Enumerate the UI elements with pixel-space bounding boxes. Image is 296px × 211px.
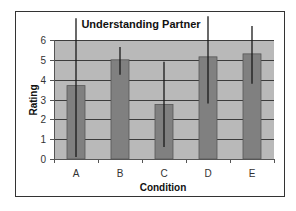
y-tick-label: 4: [40, 75, 46, 86]
y-tick-label: 0: [40, 154, 46, 165]
y-tick-label: 1: [40, 134, 46, 145]
x-tick-label: A: [73, 168, 80, 179]
chart-title: Understanding Partner: [81, 18, 201, 30]
x-tick-label: B: [117, 168, 124, 179]
y-tick-label: 2: [40, 114, 46, 125]
y-tick-label: 5: [40, 55, 46, 66]
bar-chart: 0123456 ABCDE Understanding Partner Cond…: [0, 0, 296, 211]
x-tick-label: C: [160, 168, 167, 179]
y-tick-label: 3: [40, 95, 46, 106]
y-axis-title: Rating: [28, 84, 39, 115]
x-tick-label: D: [204, 168, 211, 179]
y-tick-label: 6: [40, 35, 46, 46]
x-tick-label: E: [249, 168, 256, 179]
x-axis-title: Condition: [140, 182, 187, 193]
